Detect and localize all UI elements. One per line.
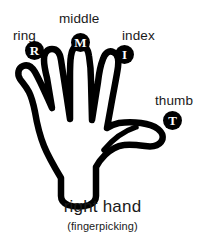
finger-label-middle: middle	[59, 12, 99, 26]
caption-main-text: right hand	[0, 198, 205, 215]
marker-badge-index: I	[115, 45, 134, 64]
marker-badge-thumb: T	[163, 111, 182, 130]
hand-silhouette-path	[18, 45, 162, 207]
marker-badge-ring: R	[25, 41, 44, 60]
caption-sub-text: (fingerpicking)	[0, 221, 205, 232]
fingerpicking-hand-diagram: ring middle index thumb R M I T right ha…	[0, 0, 205, 240]
finger-label-thumb: thumb	[155, 94, 193, 108]
finger-label-index: index	[122, 29, 155, 43]
hand-outline-group	[18, 45, 162, 207]
caption-block: right hand (fingerpicking)	[0, 198, 205, 232]
marker-badge-middle: M	[71, 33, 90, 52]
